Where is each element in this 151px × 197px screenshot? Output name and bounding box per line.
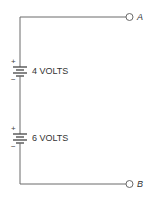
- circuit-diagram: + − + − 4 VOLTS 6 VOLTS A B: [0, 0, 151, 197]
- battery-2-negative-sign: −: [11, 142, 16, 151]
- battery-1-negative-sign: −: [11, 75, 16, 84]
- terminal-a-icon: [126, 14, 133, 21]
- battery-1-label: 4 VOLTS: [32, 66, 68, 76]
- terminal-a-label: A: [136, 12, 143, 22]
- terminal-b-icon: [126, 181, 133, 188]
- battery-2-positive-sign: +: [11, 124, 16, 133]
- terminal-b-label: B: [137, 179, 143, 189]
- battery-1-positive-sign: +: [11, 57, 16, 66]
- battery-2-label: 6 VOLTS: [32, 133, 68, 143]
